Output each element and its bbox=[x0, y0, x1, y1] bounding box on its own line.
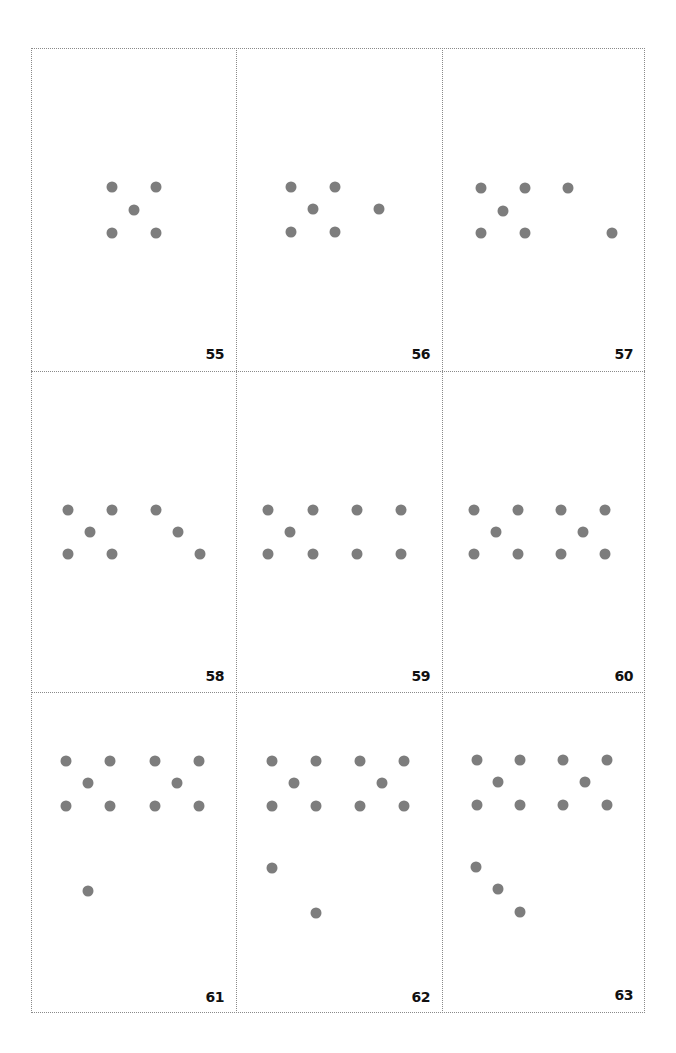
dot-card-57 bbox=[607, 228, 618, 239]
dot-card-62 bbox=[355, 756, 366, 767]
dot-card-61 bbox=[172, 778, 183, 789]
dot-card-61 bbox=[83, 778, 94, 789]
dot-card-60 bbox=[491, 527, 502, 538]
dot-card-58 bbox=[151, 505, 162, 516]
dot-card-63 bbox=[493, 777, 504, 788]
dot-card-63 bbox=[558, 755, 569, 766]
dot-card-63 bbox=[472, 755, 483, 766]
dot-card-63 bbox=[493, 884, 504, 895]
dot-card-60 bbox=[469, 549, 480, 560]
card-number-62: 62 bbox=[412, 990, 430, 1004]
dot-card-55 bbox=[129, 205, 140, 216]
dot-card-60 bbox=[600, 549, 611, 560]
dot-card-58 bbox=[85, 527, 96, 538]
dot-card-57 bbox=[563, 183, 574, 194]
dot-card-58 bbox=[107, 549, 118, 560]
dot-card-62 bbox=[311, 756, 322, 767]
dot-card-58 bbox=[173, 527, 184, 538]
dot-card-59 bbox=[263, 549, 274, 560]
dot-card-60 bbox=[513, 549, 524, 560]
dot-card-61 bbox=[105, 801, 116, 812]
grid-border bbox=[31, 48, 645, 1013]
dot-card-58 bbox=[107, 505, 118, 516]
dot-card-62 bbox=[267, 863, 278, 874]
dot-card-63 bbox=[515, 800, 526, 811]
dot-card-60 bbox=[469, 505, 480, 516]
dot-card-61 bbox=[194, 756, 205, 767]
dot-card-55 bbox=[151, 228, 162, 239]
dot-card-57 bbox=[520, 183, 531, 194]
card-number-60: 60 bbox=[615, 669, 633, 683]
dot-card-61 bbox=[61, 756, 72, 767]
dot-card-63 bbox=[472, 800, 483, 811]
dot-card-61 bbox=[105, 756, 116, 767]
dot-card-59 bbox=[396, 505, 407, 516]
dot-card-56 bbox=[308, 204, 319, 215]
dot-card-62 bbox=[399, 756, 410, 767]
dot-card-61 bbox=[83, 886, 94, 897]
dot-card-63 bbox=[515, 755, 526, 766]
dot-card-59 bbox=[352, 505, 363, 516]
card-sheet: 55 56 57 58 59 60 61 62 63 bbox=[0, 0, 676, 1053]
dot-card-62 bbox=[289, 778, 300, 789]
dot-card-56 bbox=[286, 182, 297, 193]
dot-card-59 bbox=[308, 505, 319, 516]
dot-card-60 bbox=[556, 505, 567, 516]
dot-card-63 bbox=[580, 777, 591, 788]
dot-card-56 bbox=[374, 204, 385, 215]
column-divider bbox=[442, 48, 443, 1013]
dot-card-61 bbox=[150, 801, 161, 812]
dot-card-63 bbox=[515, 907, 526, 918]
dot-card-55 bbox=[151, 182, 162, 193]
dot-card-59 bbox=[352, 549, 363, 560]
dot-card-62 bbox=[399, 801, 410, 812]
dot-card-56 bbox=[286, 227, 297, 238]
dot-card-55 bbox=[107, 228, 118, 239]
dot-card-62 bbox=[311, 908, 322, 919]
dot-card-56 bbox=[330, 227, 341, 238]
dot-card-60 bbox=[556, 549, 567, 560]
dot-card-58 bbox=[195, 549, 206, 560]
dot-card-62 bbox=[267, 801, 278, 812]
dot-card-59 bbox=[263, 505, 274, 516]
card-number-56: 56 bbox=[412, 347, 430, 361]
dot-card-62 bbox=[267, 756, 278, 767]
dot-card-63 bbox=[471, 862, 482, 873]
dot-card-61 bbox=[61, 801, 72, 812]
dot-card-61 bbox=[194, 801, 205, 812]
column-divider bbox=[236, 48, 237, 1013]
card-number-59: 59 bbox=[412, 669, 430, 683]
dot-card-57 bbox=[498, 206, 509, 217]
row-divider bbox=[31, 692, 645, 693]
dot-card-58 bbox=[63, 505, 74, 516]
dot-card-55 bbox=[107, 182, 118, 193]
card-number-57: 57 bbox=[615, 347, 633, 361]
dot-card-59 bbox=[285, 527, 296, 538]
dot-card-60 bbox=[600, 505, 611, 516]
dot-card-62 bbox=[311, 801, 322, 812]
card-number-58: 58 bbox=[206, 669, 224, 683]
dot-card-63 bbox=[602, 755, 613, 766]
dot-card-63 bbox=[558, 800, 569, 811]
dot-card-60 bbox=[578, 527, 589, 538]
dot-card-57 bbox=[476, 228, 487, 239]
dot-card-59 bbox=[308, 549, 319, 560]
dot-card-57 bbox=[520, 228, 531, 239]
dot-card-59 bbox=[396, 549, 407, 560]
card-number-55: 55 bbox=[206, 347, 224, 361]
dot-card-58 bbox=[63, 549, 74, 560]
dot-card-56 bbox=[330, 182, 341, 193]
dot-card-57 bbox=[476, 183, 487, 194]
dot-card-61 bbox=[150, 756, 161, 767]
dot-card-62 bbox=[377, 778, 388, 789]
dot-card-62 bbox=[355, 801, 366, 812]
row-divider bbox=[31, 371, 645, 372]
card-number-63: 63 bbox=[615, 988, 633, 1002]
dot-card-63 bbox=[602, 800, 613, 811]
card-number-61: 61 bbox=[206, 990, 224, 1004]
dot-card-60 bbox=[513, 505, 524, 516]
